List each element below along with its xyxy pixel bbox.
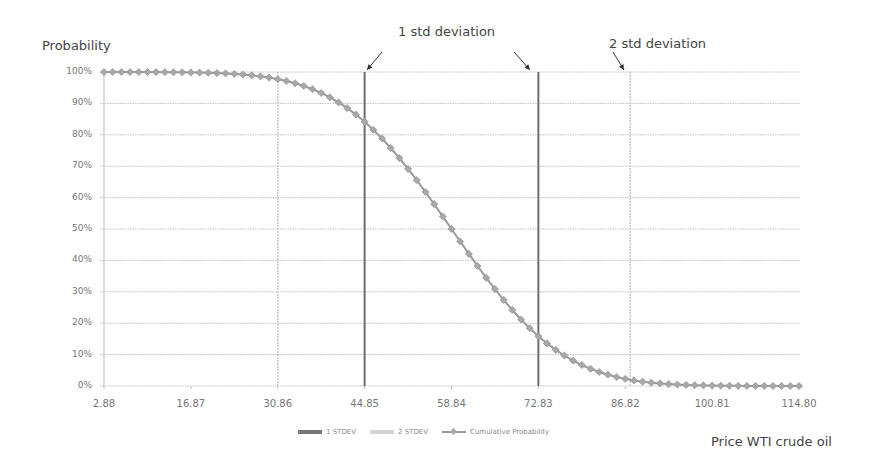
data-point-marker	[613, 373, 620, 380]
data-point-marker	[257, 73, 264, 80]
data-point-marker	[179, 69, 186, 76]
data-point-marker	[795, 382, 802, 389]
data-point-marker	[665, 380, 672, 387]
data-point-marker	[709, 382, 716, 389]
data-point-marker	[682, 381, 689, 388]
data-point-marker	[648, 379, 655, 386]
data-point-marker	[761, 382, 768, 389]
chart-legend: 1 STDEV 2 STDEV Cumulative Probability	[298, 428, 549, 436]
data-point-marker	[144, 68, 151, 75]
data-point-marker	[265, 74, 272, 81]
data-point-marker	[153, 69, 160, 76]
data-point-marker	[196, 69, 203, 76]
data-point-marker	[231, 70, 238, 77]
data-point-marker	[622, 375, 629, 382]
data-point-marker	[187, 69, 194, 76]
data-point-marker	[735, 382, 742, 389]
data-point-marker	[778, 382, 785, 389]
data-point-marker	[248, 72, 255, 79]
data-point-marker	[630, 377, 637, 384]
data-point-marker	[717, 382, 724, 389]
data-point-marker	[135, 68, 142, 75]
legend-label: Cumulative Probability	[470, 428, 549, 436]
legend-swatch-2-stdev	[370, 430, 394, 434]
data-point-marker	[787, 382, 794, 389]
data-point-marker	[309, 86, 316, 93]
chart-plot-area	[0, 0, 878, 476]
legend-swatch-cumulative	[442, 429, 466, 435]
data-point-marker	[126, 68, 133, 75]
data-point-marker	[674, 381, 681, 388]
data-point-marker	[213, 69, 220, 76]
data-point-marker	[596, 368, 603, 375]
data-point-marker	[639, 378, 646, 385]
data-point-marker	[318, 89, 325, 96]
data-point-marker	[726, 382, 733, 389]
x-axis-title: Price WTI crude oil	[711, 434, 832, 449]
data-point-marker	[752, 382, 759, 389]
legend-label: 1 STDEV	[326, 428, 356, 436]
legend-item-1-stdev: 1 STDEV	[298, 428, 356, 436]
data-point-marker	[161, 69, 168, 76]
data-point-marker	[205, 69, 212, 76]
data-point-marker	[743, 382, 750, 389]
data-point-marker	[691, 382, 698, 389]
data-point-marker	[604, 371, 611, 378]
data-point-marker	[118, 68, 125, 75]
data-point-marker	[100, 68, 107, 75]
data-point-marker	[274, 76, 281, 83]
data-point-marker	[292, 80, 299, 87]
data-point-marker	[769, 382, 776, 389]
legend-label: 2 STDEV	[398, 428, 428, 436]
legend-item-2-stdev: 2 STDEV	[370, 428, 428, 436]
data-point-marker	[300, 82, 307, 89]
data-point-marker	[109, 68, 116, 75]
legend-item-cumulative: Cumulative Probability	[442, 428, 549, 436]
data-point-marker	[700, 382, 707, 389]
data-point-marker	[587, 365, 594, 372]
data-point-marker	[170, 69, 177, 76]
data-point-marker	[283, 77, 290, 84]
legend-swatch-1-stdev	[298, 430, 322, 434]
data-point-marker	[222, 70, 229, 77]
data-point-marker	[578, 361, 585, 368]
